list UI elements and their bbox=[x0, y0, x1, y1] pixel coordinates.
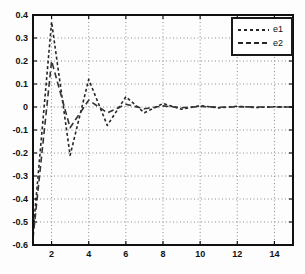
legend-label-e2: e2 bbox=[273, 39, 283, 48]
x-tick-label: 8 bbox=[160, 249, 165, 259]
e2-dashed-line-sample-icon bbox=[238, 42, 269, 44]
y-tick-label: 0.1 bbox=[15, 79, 28, 89]
legend: e1 e2 bbox=[231, 17, 293, 56]
legend-label-e1: e1 bbox=[273, 25, 283, 34]
y-tick-label: -0.3 bbox=[12, 171, 28, 181]
y-tick-label: -0.1 bbox=[12, 125, 28, 135]
y-tick-label: -0.4 bbox=[12, 194, 28, 204]
legend-item-e1: e1 bbox=[238, 25, 287, 34]
y-tick-label: 0.4 bbox=[15, 10, 28, 20]
figure: 24681012140.40.30.20.10-0.1-0.2-0.3-0.4-… bbox=[0, 0, 305, 274]
x-tick-label: 2 bbox=[49, 249, 54, 259]
x-tick-label: 6 bbox=[123, 249, 128, 259]
y-tick-label: 0 bbox=[23, 102, 28, 112]
legend-item-e2: e2 bbox=[238, 39, 287, 48]
x-tick-label: 4 bbox=[86, 249, 91, 259]
x-tick-label: 12 bbox=[232, 249, 242, 259]
x-tick-label: 14 bbox=[269, 249, 279, 259]
y-tick-label: 0.3 bbox=[15, 33, 28, 43]
y-tick-label: 0.2 bbox=[15, 56, 28, 66]
y-tick-label: -0.6 bbox=[12, 240, 28, 250]
y-tick-label: -0.2 bbox=[12, 148, 28, 158]
y-tick-label: -0.5 bbox=[12, 217, 28, 227]
e1-dashed-line-sample-icon bbox=[238, 29, 269, 31]
x-tick-label: 10 bbox=[195, 249, 205, 259]
